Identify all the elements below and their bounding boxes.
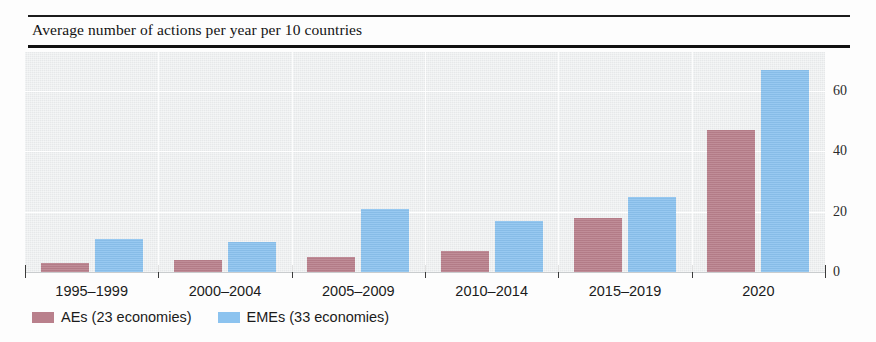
bar — [174, 260, 222, 272]
category-separator — [425, 52, 426, 272]
bar — [574, 218, 622, 272]
legend-item: AEs (23 economies) — [32, 309, 192, 325]
bar — [628, 197, 676, 272]
legend-swatch-ae — [32, 312, 54, 323]
legend-item: EMEs (33 economies) — [218, 309, 390, 325]
bar — [495, 221, 543, 272]
header-rule-bottom — [28, 45, 850, 48]
x-axis-tick-label: 2015–2019 — [589, 283, 662, 299]
plot-area — [25, 52, 825, 272]
x-axis-tick-mark — [25, 265, 26, 278]
chart-title: Average number of actions per year per 1… — [32, 21, 362, 39]
legend-label: EMEs (33 economies) — [247, 309, 390, 325]
bar — [761, 70, 809, 272]
y-axis-tick-label: 0 — [833, 264, 840, 280]
legend-swatch-eme — [218, 312, 240, 323]
x-axis-tick-label: 2020 — [742, 283, 774, 299]
bar-chart-figure: Average number of actions per year per 1… — [0, 0, 876, 342]
bar — [361, 209, 409, 272]
x-axis-tick-mark — [825, 265, 826, 278]
y-axis-tick-label: 20 — [833, 204, 847, 220]
bar — [307, 257, 355, 272]
category-separator — [292, 52, 293, 272]
category-separator — [558, 52, 559, 272]
y-axis-tick-label: 40 — [833, 143, 847, 159]
bar — [707, 130, 755, 272]
x-axis-tick-label: 2005–2009 — [322, 283, 395, 299]
bar — [41, 263, 89, 272]
bar — [228, 242, 276, 272]
x-axis-tick-label: 2000–2004 — [189, 283, 262, 299]
category-separator — [692, 52, 693, 272]
category-separator — [158, 52, 159, 272]
bar — [95, 239, 143, 272]
bar — [441, 251, 489, 272]
chart-legend: AEs (23 economies)EMEs (33 economies) — [32, 309, 389, 325]
legend-label: AEs (23 economies) — [61, 309, 192, 325]
y-axis-tick-label: 60 — [833, 83, 847, 99]
x-axis-tick-label: 2010–2014 — [455, 283, 528, 299]
header-rule-top — [28, 15, 850, 17]
x-axis-tick-label: 1995–1999 — [55, 283, 128, 299]
